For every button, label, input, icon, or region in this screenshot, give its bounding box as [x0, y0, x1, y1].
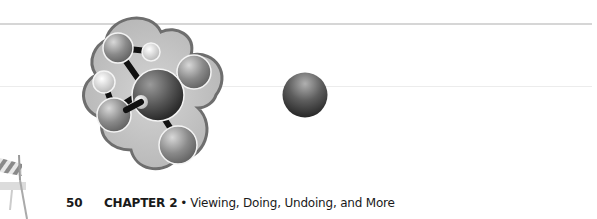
sphere-icon: [281, 70, 329, 120]
page-footer: 50CHAPTER 2•Viewing, Doing, Undoing, and…: [66, 196, 395, 210]
page-number: 50: [66, 196, 104, 210]
chapter-title: Viewing, Doing, Undoing, and More: [190, 196, 395, 210]
molecule-icon: [66, 10, 246, 180]
separator-bullet: •: [180, 196, 187, 210]
construction-barricade-icon: [0, 150, 34, 219]
chapter-label: CHAPTER 2: [104, 196, 177, 210]
